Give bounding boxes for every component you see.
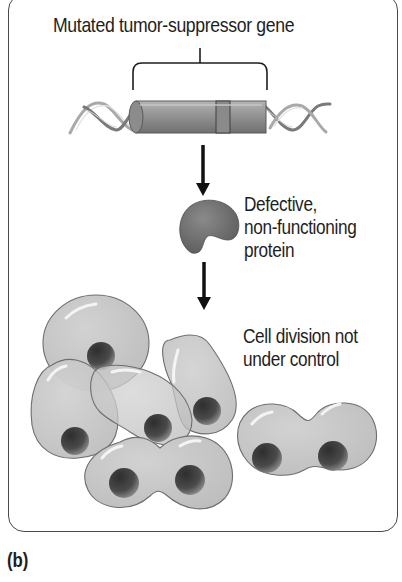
- diagram-artwork: [0, 0, 402, 582]
- gene-segment-icon: [129, 101, 266, 133]
- defective-protein-icon: [180, 200, 239, 253]
- dividing-cell-icon: [85, 436, 233, 509]
- dividing-cell-icon: [238, 403, 377, 475]
- dividing-cells-cluster-icon: [31, 295, 376, 509]
- dna-helix-right-icon: [262, 104, 330, 132]
- gene-bracket: [133, 48, 267, 90]
- arrow-down-icon: [197, 262, 211, 310]
- arrow-down-icon: [196, 145, 210, 196]
